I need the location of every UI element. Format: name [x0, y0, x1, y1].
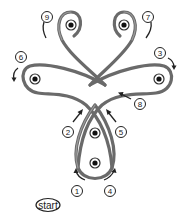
- hole-right: [154, 74, 164, 84]
- step-9-stem: [43, 22, 46, 38]
- svg-text:8: 8: [138, 100, 143, 109]
- step-badge-9: 9: [42, 12, 53, 23]
- step-badge-4: 4: [105, 186, 116, 197]
- svg-text:3: 3: [158, 49, 163, 58]
- svg-text:5: 5: [119, 128, 124, 137]
- svg-text:4: 4: [108, 187, 113, 196]
- step-badge-6: 6: [16, 52, 27, 63]
- step-badge-8: 8: [135, 99, 146, 110]
- hole-left: [30, 74, 40, 84]
- step-badge-1: 1: [72, 186, 83, 197]
- start-label: start: [36, 199, 60, 212]
- svg-text:9: 9: [45, 13, 50, 22]
- step-badge-2: 2: [63, 127, 74, 138]
- hole-top-left: [66, 20, 76, 30]
- arrow-step-5: [106, 109, 116, 122]
- hole-center-lower: [90, 158, 100, 168]
- svg-text:start: start: [38, 200, 58, 211]
- step-badge-5: 5: [116, 127, 127, 138]
- svg-text:1: 1: [75, 187, 80, 196]
- hole-top-right: [119, 20, 129, 30]
- arrow-step-2: [73, 109, 83, 122]
- svg-text:7: 7: [146, 13, 151, 22]
- lacing-diagram: 1 2 3 4 5 6 7 8 9 start: [0, 0, 184, 223]
- svg-text:2: 2: [66, 128, 71, 137]
- svg-text:6: 6: [19, 53, 24, 62]
- step-badge-7: 7: [143, 12, 154, 23]
- step-7-stem: [146, 22, 151, 38]
- step-badge-3: 3: [155, 48, 166, 59]
- hole-center-upper: [90, 128, 100, 138]
- arrow-step-6: [12, 68, 19, 82]
